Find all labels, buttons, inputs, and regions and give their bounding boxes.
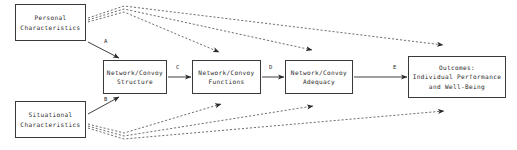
node-network-convoy-structure-label: Network/Convoy Structure [107, 68, 163, 87]
node-network-convoy-functions[interactable]: Network/Convoy Functions [192, 60, 261, 94]
node-outcomes-label: Outcomes: Individual Performance and Wel… [413, 63, 501, 92]
diagram-canvas: Personal Characteristics Situational Cha… [0, 0, 517, 150]
node-network-convoy-adequacy[interactable]: Network/Convoy Adequacy [285, 60, 353, 94]
dashed-situational-functions-line [88, 104, 221, 133]
edge-a-line [88, 42, 119, 58]
edge-label-e: E [393, 64, 397, 70]
node-network-convoy-functions-label: Network/Convoy Functions [198, 68, 254, 87]
node-outcomes[interactable]: Outcomes: Individual Performance and Wel… [408, 56, 506, 98]
node-network-convoy-adequacy-label: Network/Convoy Adequacy [291, 68, 347, 87]
edge-label-b: B [104, 96, 108, 102]
edge-label-d: D [269, 64, 273, 70]
dashed-situational-outcomes-line [88, 111, 444, 139]
node-situational-characteristics[interactable]: Situational Characteristics [15, 101, 86, 138]
edge-label-c: C [176, 64, 180, 70]
dashed-personal-outcomes-line [88, 6, 443, 45]
node-personal-characteristics[interactable]: Personal Characteristics [15, 4, 86, 41]
node-situational-characteristics-label: Situational Characteristics [20, 110, 80, 129]
dashed-personal-adequacy-line [88, 9, 312, 50]
node-network-convoy-structure[interactable]: Network/Convoy Structure [103, 60, 167, 94]
edge-label-a: A [104, 38, 108, 44]
dashed-personal-functions-line [88, 12, 219, 52]
node-personal-characteristics-label: Personal Characteristics [20, 13, 80, 32]
